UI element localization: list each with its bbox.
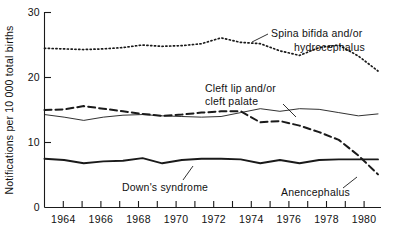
series-cleft-lip bbox=[45, 109, 379, 121]
annotation-cleft-lip-line2: cleft palate bbox=[205, 95, 258, 107]
series-anencephalus bbox=[45, 106, 379, 174]
x-ticklabel-1968: 1968 bbox=[126, 213, 151, 225]
x-ticklabel-1966: 1966 bbox=[89, 213, 114, 225]
annotation-downs-syndrome: Down's syndrome bbox=[122, 166, 208, 193]
x-ticklabel-1976: 1976 bbox=[277, 213, 302, 225]
x-ticklabel-1964: 1964 bbox=[51, 213, 76, 225]
annotation-anencephalus-label: Anencephalus bbox=[281, 186, 350, 198]
annotation-spina-bifida-line2: hydrocephalus bbox=[294, 41, 365, 53]
x-ticklabel-1978: 1978 bbox=[314, 213, 339, 225]
annotation-anencephalus: Anencephalus bbox=[281, 177, 357, 198]
x-axis: 1964 1966 1968 1970 1972 1974 1976 1978 … bbox=[45, 201, 382, 225]
y-ticklabel-10: 10 bbox=[28, 136, 40, 148]
x-ticklabel-1980: 1980 bbox=[352, 213, 377, 225]
x-ticklabel-1974: 1974 bbox=[239, 213, 264, 225]
annotation-spina-bifida-line1: Spina bifida and/or bbox=[271, 27, 363, 39]
y-axis-title: Notifications per 10 000 total births bbox=[3, 25, 15, 194]
annotation-downs-syndrome-label: Down's syndrome bbox=[122, 181, 208, 193]
leader-line-downs-syndrome bbox=[183, 166, 193, 180]
annotation-cleft-lip-line1: Cleft lip and/or bbox=[205, 82, 276, 94]
annotation-spina-bifida: Spina bifida and/or hydrocephalus bbox=[252, 27, 365, 53]
x-ticklabel-1970: 1970 bbox=[164, 213, 189, 225]
leader-line-spina-bifida bbox=[252, 34, 268, 42]
series-downs-syndrome bbox=[45, 158, 379, 163]
chart-container: 30 20 10 0 Notifications per 10 000 tota… bbox=[0, 0, 395, 241]
y-ticklabel-0: 0 bbox=[34, 201, 40, 213]
x-ticklabel-1972: 1972 bbox=[201, 213, 226, 225]
line-chart: 30 20 10 0 Notifications per 10 000 tota… bbox=[0, 0, 395, 241]
y-ticklabel-30: 30 bbox=[28, 6, 40, 18]
y-ticklabel-20: 20 bbox=[28, 71, 40, 83]
